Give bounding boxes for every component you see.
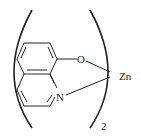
oxygen-label: O [77, 53, 85, 65]
structure-svg: O N Zn 2 [0, 0, 141, 140]
o-zn-bond [86, 61, 110, 72]
left-parenthesis [14, 10, 32, 128]
right-parenthesis [90, 10, 108, 128]
n-zn-bond [66, 77, 110, 95]
zinc-label: Zn [119, 70, 132, 82]
benzene-ring [17, 43, 57, 74]
subscript-label: 2 [101, 120, 107, 132]
zinc-8-hydroxyquinolinate-structure: O N Zn 2 [0, 0, 141, 140]
nitrogen-label: N [56, 91, 64, 103]
